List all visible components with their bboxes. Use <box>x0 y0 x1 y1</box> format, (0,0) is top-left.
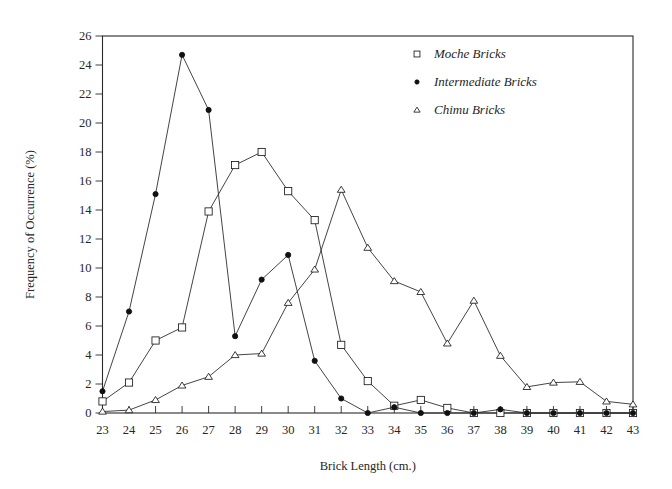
data-point <box>418 410 423 415</box>
data-point <box>232 161 239 168</box>
y-tick-label: 12 <box>79 232 92 246</box>
data-point <box>524 410 529 415</box>
legend-label: Chimu Bricks <box>434 102 505 117</box>
legend-label: Intermediate Bricks <box>433 74 537 89</box>
data-point <box>445 410 450 415</box>
y-tick-label: 18 <box>79 145 92 159</box>
x-tick-label: 26 <box>176 423 189 437</box>
x-tick-label: 43 <box>627 423 640 437</box>
frequency-line-chart: 02468101214161820222426 2324252627282930… <box>0 0 672 489</box>
x-tick-label: 25 <box>149 423 162 437</box>
data-point <box>364 378 371 385</box>
filled-circle-icon <box>415 80 419 84</box>
data-point <box>471 410 476 415</box>
open-square-icon <box>414 51 420 57</box>
data-point <box>551 410 556 415</box>
data-point <box>178 324 185 331</box>
data-point <box>311 217 318 224</box>
data-point <box>312 358 317 363</box>
data-point <box>577 410 582 415</box>
data-point <box>125 379 132 386</box>
data-point <box>233 334 238 339</box>
x-tick-label: 32 <box>335 423 348 437</box>
y-tick-label: 22 <box>79 87 92 101</box>
y-tick-label: 6 <box>85 319 91 333</box>
x-tick-label: 35 <box>415 423 428 437</box>
data-point <box>179 52 184 57</box>
data-point <box>152 337 159 344</box>
y-tick-label: 26 <box>79 29 92 43</box>
legend-item: Intermediate Bricks <box>415 74 537 89</box>
y-tick-label: 0 <box>85 406 91 420</box>
data-point <box>498 407 503 412</box>
data-point <box>206 107 211 112</box>
x-tick-label: 27 <box>202 423 215 437</box>
y-axis-title: Frequency of Occurrence (%) <box>23 150 37 299</box>
x-tick-label: 29 <box>255 423 268 437</box>
x-tick-label: 24 <box>123 423 136 437</box>
data-point <box>630 410 635 415</box>
legend-label: Moche Bricks <box>433 46 506 61</box>
chart-figure: 02468101214161820222426 2324252627282930… <box>0 0 672 489</box>
x-axis-title: Brick Length (cm.) <box>320 459 416 473</box>
data-point <box>417 396 424 403</box>
y-tick-label: 8 <box>85 290 91 304</box>
data-point <box>604 410 609 415</box>
x-tick-label: 34 <box>388 423 401 437</box>
x-tick-label: 31 <box>308 423 321 437</box>
data-point <box>285 188 292 195</box>
y-tick-label: 2 <box>85 377 91 391</box>
x-tick-label: 41 <box>574 423 587 437</box>
data-point <box>205 208 212 215</box>
data-point <box>259 277 264 282</box>
y-tick-label: 16 <box>79 174 92 188</box>
y-tick-label: 24 <box>79 58 92 72</box>
x-tick-label: 30 <box>282 423 295 437</box>
data-point <box>339 396 344 401</box>
data-point <box>286 252 291 257</box>
y-tick-label: 14 <box>79 203 92 217</box>
data-point <box>126 309 131 314</box>
chart-background <box>0 0 672 489</box>
x-tick-label: 40 <box>547 423 560 437</box>
data-point <box>365 410 370 415</box>
x-tick-label: 28 <box>229 423 242 437</box>
data-point <box>258 148 265 155</box>
x-tick-label: 23 <box>96 423 109 437</box>
x-tick-label: 36 <box>441 423 454 437</box>
data-point <box>100 389 105 394</box>
y-tick-label: 4 <box>85 348 92 362</box>
y-tick-label: 20 <box>79 116 92 130</box>
data-point <box>338 341 345 348</box>
x-tick-label: 33 <box>362 423 375 437</box>
x-tick-label: 42 <box>600 423 613 437</box>
data-point <box>99 398 106 405</box>
data-point <box>153 191 158 196</box>
data-point <box>392 405 397 410</box>
x-tick-label: 38 <box>494 423 507 437</box>
x-tick-label: 39 <box>521 423 534 437</box>
y-tick-label: 10 <box>79 261 92 275</box>
x-tick-label: 37 <box>468 423 481 437</box>
